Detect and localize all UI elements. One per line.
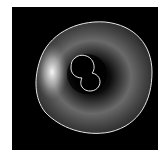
segmented-image (0, 0, 165, 154)
highlight (36, 44, 68, 100)
